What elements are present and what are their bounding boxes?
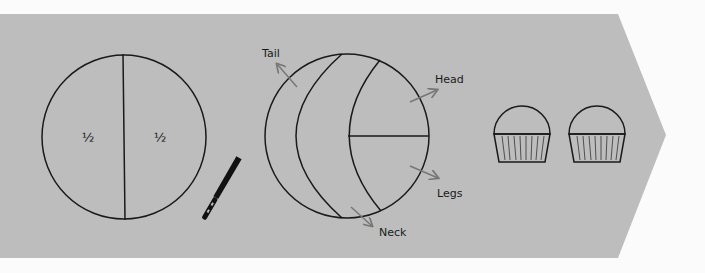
cake-cutting-diagram: ½ ½ Tail Head Legs Neck (0, 0, 705, 273)
legs-label: Legs (437, 187, 463, 200)
head-label: Head (435, 73, 464, 86)
tail-label: Tail (261, 47, 280, 60)
diagram-canvas: ½ ½ Tail Head Legs Neck (0, 0, 705, 273)
neck-label: Neck (379, 226, 407, 239)
left-half-label: ½ (82, 130, 95, 145)
arrow-banner (0, 14, 666, 258)
right-half-label: ½ (154, 130, 167, 145)
